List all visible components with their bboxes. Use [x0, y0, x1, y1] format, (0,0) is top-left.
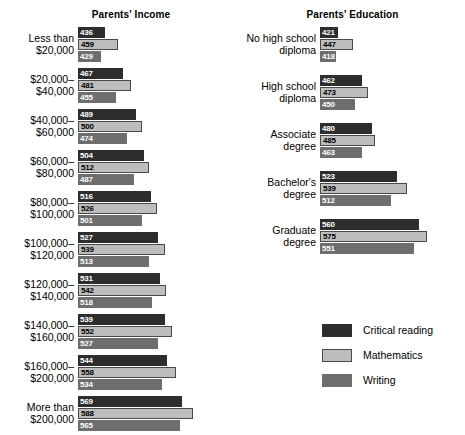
- bar-stack: 569588565: [78, 396, 232, 431]
- bar-row[interactable]: 526: [78, 203, 232, 214]
- bar-row[interactable]: 436: [78, 27, 232, 38]
- bar-group-label: $20,000– $40,000: [0, 74, 78, 97]
- bar-row[interactable]: 513: [78, 256, 232, 267]
- bar-stack: 504512487: [78, 150, 232, 185]
- bar-group: No high school diploma421447418: [232, 27, 465, 62]
- bar-group: $20,000– $40,000467481455: [0, 68, 232, 103]
- bar-row[interactable]: 501: [78, 215, 232, 226]
- bar-value-label: 429: [80, 51, 93, 62]
- bar-writing[interactable]: [78, 420, 180, 431]
- panel-title-income: Parents' Income: [0, 9, 232, 23]
- bar-value-label: 467: [80, 68, 93, 79]
- bar-value-label: 552: [81, 326, 94, 337]
- bar-value-label: 447: [323, 39, 336, 50]
- bar-row[interactable]: 542: [78, 285, 232, 296]
- bar-value-label: 481: [81, 80, 94, 91]
- bar-group-label: Less than $20,000: [0, 33, 78, 56]
- bar-row[interactable]: 473: [320, 87, 465, 98]
- bar-row[interactable]: 480: [320, 123, 465, 134]
- bar-row[interactable]: 462: [320, 75, 465, 86]
- bar-mathematics[interactable]: [320, 231, 427, 242]
- bar-row[interactable]: 527: [78, 232, 232, 243]
- bar-row[interactable]: 512: [320, 195, 465, 206]
- bar-stack: 560575551: [320, 219, 465, 254]
- bar-value-label: 418: [322, 51, 335, 62]
- bar-group-list-education: No high school diploma421447418High scho…: [232, 23, 465, 254]
- bar-row[interactable]: 512: [78, 162, 232, 173]
- bar-row[interactable]: 429: [78, 51, 232, 62]
- bar-row[interactable]: 485: [320, 135, 465, 146]
- bar-row[interactable]: 455: [78, 92, 232, 103]
- bar-stack: 436459429: [78, 27, 232, 62]
- bar-value-label: 501: [80, 215, 93, 226]
- bar-row[interactable]: 447: [320, 39, 465, 50]
- bar-row[interactable]: 534: [78, 379, 232, 390]
- bar-row[interactable]: 421: [320, 27, 465, 38]
- bar-group-label: $60,000– $80,000: [0, 156, 78, 179]
- bar-value-label: 421: [322, 27, 335, 38]
- bar-row[interactable]: 418: [320, 51, 465, 62]
- bar-row[interactable]: 489: [78, 109, 232, 120]
- bar-group-label: $160,000– $200,000: [0, 361, 78, 384]
- bar-row[interactable]: 500: [78, 121, 232, 132]
- bar-stack: 527539513: [78, 232, 232, 267]
- bar-value-label: 463: [322, 147, 335, 158]
- bar-value-label: 462: [322, 75, 335, 86]
- bar-row[interactable]: 463: [320, 147, 465, 158]
- legend-item[interactable]: Mathematics: [322, 348, 433, 362]
- bar-value-label: 539: [81, 244, 94, 255]
- bar-value-label: 527: [80, 232, 93, 243]
- bar-stack: 480485463: [320, 123, 465, 158]
- bar-row[interactable]: 565: [78, 420, 232, 431]
- bar-stack: 421447418: [320, 27, 465, 62]
- bar-group-label: Graduate degree: [232, 225, 320, 248]
- legend-item[interactable]: Critical reading: [322, 323, 433, 337]
- bar-row[interactable]: 487: [78, 174, 232, 185]
- bar-group-list-income: Less than $20,000436459429$20,000– $40,0…: [0, 23, 232, 431]
- bar-group-label: High school diploma: [232, 81, 320, 104]
- bar-row[interactable]: 516: [78, 191, 232, 202]
- bar-row[interactable]: 575: [320, 231, 465, 242]
- bar-row[interactable]: 560: [320, 219, 465, 230]
- bar-row[interactable]: 504: [78, 150, 232, 161]
- bar-value-label: 569: [80, 396, 93, 407]
- bar-row[interactable]: 569: [78, 396, 232, 407]
- bar-row[interactable]: 539: [320, 183, 465, 194]
- bar-group-label: No high school diploma: [232, 33, 320, 56]
- bar-row[interactable]: 518: [78, 297, 232, 308]
- bar-value-label: 544: [80, 355, 93, 366]
- bar-value-label: 516: [80, 191, 93, 202]
- bar-row[interactable]: 474: [78, 133, 232, 144]
- bar-group-label: More than $200,000: [0, 402, 78, 425]
- bar-row[interactable]: 552: [78, 326, 232, 337]
- bar-value-label: 485: [323, 135, 336, 146]
- bar-group-label: $40,000– $60,000: [0, 115, 78, 138]
- bar-row[interactable]: 531: [78, 273, 232, 284]
- bar-row[interactable]: 539: [78, 244, 232, 255]
- bar-stack: 544558534: [78, 355, 232, 390]
- bar-critical-reading[interactable]: [78, 396, 182, 407]
- bar-row[interactable]: 450: [320, 99, 465, 110]
- bar-value-label: 565: [80, 420, 93, 431]
- bar-row[interactable]: 467: [78, 68, 232, 79]
- bar-mathematics[interactable]: [78, 408, 193, 419]
- bar-group-label: $140,000– $160,000: [0, 320, 78, 343]
- bar-group: Less than $20,000436459429: [0, 27, 232, 62]
- bar-value-label: 500: [81, 121, 94, 132]
- bar-stack: 489500474: [78, 109, 232, 144]
- legend-item[interactable]: Writing: [322, 373, 433, 387]
- bar-row[interactable]: 523: [320, 171, 465, 182]
- bar-value-label: 526: [81, 203, 94, 214]
- bar-row[interactable]: 558: [78, 367, 232, 378]
- bar-row[interactable]: 588: [78, 408, 232, 419]
- bar-value-label: 588: [81, 408, 94, 419]
- bar-group: Bachelor's degree523539512: [232, 171, 465, 206]
- bar-row[interactable]: 539: [78, 314, 232, 325]
- bar-row[interactable]: 544: [78, 355, 232, 366]
- bar-group: $40,000– $60,000489500474: [0, 109, 232, 144]
- bar-value-label: 513: [80, 256, 93, 267]
- bar-row[interactable]: 527: [78, 338, 232, 349]
- bar-row[interactable]: 481: [78, 80, 232, 91]
- bar-row[interactable]: 551: [320, 243, 465, 254]
- bar-row[interactable]: 459: [78, 39, 232, 50]
